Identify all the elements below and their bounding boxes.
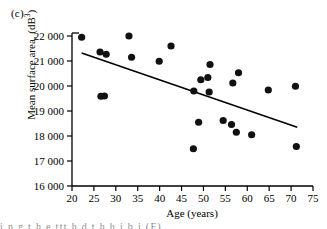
x-tick-labels: 202530354045505560657075 [67, 192, 320, 204]
data-point [96, 48, 103, 55]
y-tick-label: 22 000 [34, 30, 65, 42]
x-tick-label: 60 [242, 192, 254, 204]
data-point [128, 54, 135, 61]
data-point [78, 34, 85, 41]
x-tick-label: 55 [220, 192, 232, 204]
data-point [167, 42, 174, 49]
x-tick-label: 20 [67, 192, 79, 204]
data-point [190, 145, 197, 152]
data-point [206, 88, 213, 95]
data-point [204, 74, 211, 81]
y-tick-marks [67, 36, 72, 186]
y-tick-labels: 16 00017 00018 00019 00020 00021 00022 0… [34, 30, 65, 192]
y-tick-label: 17 000 [34, 155, 65, 167]
data-point [197, 76, 204, 83]
data-point [125, 32, 132, 39]
data-point [229, 79, 236, 86]
data-point [228, 121, 235, 128]
x-tick-label: 50 [198, 192, 210, 204]
data-point [233, 129, 240, 136]
data-point [220, 117, 227, 124]
data-point [103, 51, 110, 58]
data-point [248, 131, 255, 138]
x-tick-label: 70 [286, 192, 298, 204]
page-text-bleed: i n g t h e ttt h d t h h i b i (F) [0, 221, 327, 229]
x-tick-label: 65 [264, 192, 276, 204]
x-tick-label: 75 [308, 192, 320, 204]
y-tick-label: 18 000 [34, 130, 65, 142]
plot-area: 16 00017 00018 00019 00020 00021 00022 0… [0, 0, 327, 229]
x-tick-label: 35 [132, 192, 144, 204]
data-point [195, 119, 202, 126]
data-points [78, 32, 300, 152]
data-point [206, 61, 213, 68]
x-tick-label: 40 [154, 192, 166, 204]
data-point [156, 58, 163, 65]
data-point [265, 86, 272, 93]
x-tick-label: 30 [110, 192, 122, 204]
data-point [235, 69, 242, 76]
x-tick-marks [72, 186, 313, 191]
data-point [292, 83, 299, 90]
y-tick-label: 20 000 [34, 80, 65, 92]
y-tick-label: 19 000 [34, 105, 65, 117]
x-tick-label: 45 [176, 192, 188, 204]
x-tick-label: 25 [88, 192, 100, 204]
y-tick-label: 16 000 [34, 180, 65, 192]
data-point [101, 92, 108, 99]
data-point [190, 87, 197, 94]
data-point [293, 143, 300, 150]
y-tick-label: 21 000 [34, 55, 65, 67]
scatter-figure: (c) Mean surface area, (dB3) Age (years)… [0, 0, 327, 229]
